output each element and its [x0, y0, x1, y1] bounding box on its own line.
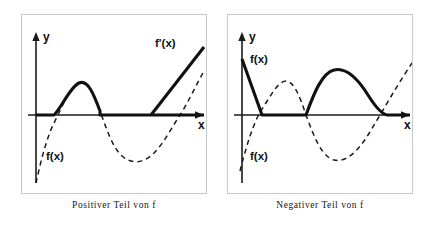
f-label: f(x) [46, 150, 64, 162]
caption-positive-part: Positiver Teil von f [21, 200, 207, 210]
y-axis-arrowhead-icon [238, 32, 245, 41]
y-axis-label: y [43, 30, 50, 44]
panel-positive-part: y x f'(x) f(x) [21, 14, 207, 194]
y-axis-label: y [249, 30, 256, 44]
f-label-upper: f(x) [250, 53, 268, 65]
curve-f-dashed [36, 71, 204, 183]
chart-positive-part: y x f'(x) f(x) [22, 15, 206, 193]
f-prime-label: f'(x) [155, 37, 176, 49]
caption-negative-part: Negativer Teil von f [227, 200, 413, 210]
f-label-lower: f(x) [250, 150, 268, 162]
curve-f-negative-part [242, 59, 410, 115]
x-axis-label: x [404, 118, 411, 132]
figure-container: y x f'(x) f(x) Positiver Teil von f y x [0, 0, 436, 229]
y-axis-arrowhead-icon [32, 32, 39, 41]
x-axis-label: x [198, 118, 205, 132]
curve-f-positive-part [36, 82, 204, 115]
curve-f-prime-line [151, 47, 204, 115]
panel-negative-part: y x f(x) f(x) [227, 14, 413, 194]
chart-negative-part: y x f(x) f(x) [228, 15, 412, 193]
